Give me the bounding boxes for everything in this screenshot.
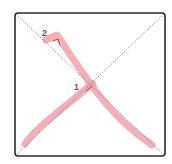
stroke-order-diagram: 2 1: [0, 0, 172, 164]
character-grid: [0, 0, 172, 164]
stroke-2-number: 2: [42, 29, 47, 38]
stroke-1-number: 1: [74, 83, 79, 92]
